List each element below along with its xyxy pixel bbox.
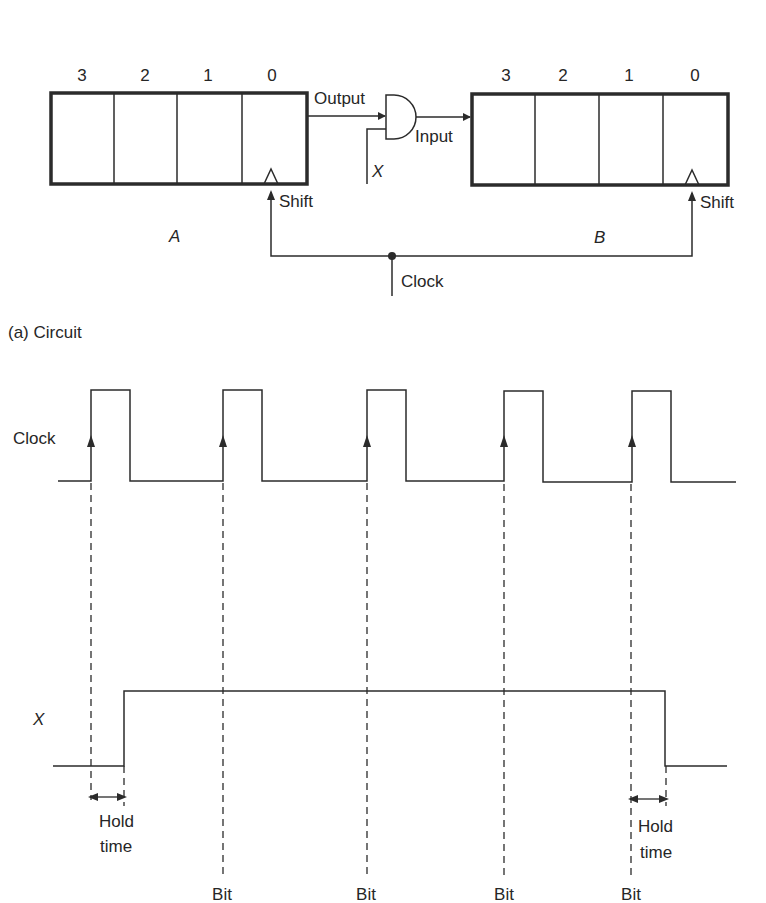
hold-time-right-line1: Hold [638, 818, 673, 835]
register-b-name: B [594, 229, 605, 246]
register-a-bit-0: 0 [267, 67, 276, 84]
bit-label-3: Bit [494, 886, 514, 903]
bit-label-4: Bit [621, 886, 641, 903]
register-b [472, 94, 728, 185]
hold-time-left-line2: time [100, 838, 132, 855]
diagram-lines [0, 0, 766, 903]
gate-x-label: X [372, 163, 383, 180]
x-waveform [53, 691, 727, 766]
dashed-guides [91, 483, 666, 875]
rising-edge-arrows [87, 435, 636, 447]
circuit-caption: (a) Circuit [8, 324, 82, 341]
timing-x-label: X [33, 711, 44, 728]
circuit-clock-label: Clock [401, 273, 444, 290]
register-b-bit-3: 3 [501, 67, 510, 84]
clock-input-triangle-icon [264, 169, 278, 184]
clock-waveform [58, 390, 736, 482]
register-a-name: A [169, 228, 180, 245]
register-a [51, 93, 307, 184]
shift-register-diagram: 3 2 1 0 3 2 1 0 Output Input X Shift Shi… [0, 0, 766, 903]
hold-time-left-line1: Hold [99, 813, 134, 830]
register-b-bit-2: 2 [558, 67, 567, 84]
bit-label-1: Bit [212, 886, 232, 903]
register-a-bit-2: 2 [140, 67, 149, 84]
register-a-bit-1: 1 [203, 67, 212, 84]
register-a-bit-3: 3 [77, 67, 86, 84]
hold-time-right-line2: time [640, 844, 672, 861]
timing-clock-label: Clock [13, 430, 56, 447]
and-gate-icon [386, 95, 416, 139]
register-b-shift-label: Shift [700, 194, 734, 211]
register-a-shift-label: Shift [279, 193, 313, 210]
clock-input-triangle-icon [685, 170, 699, 185]
output-label: Output [314, 90, 365, 107]
register-b-bit-1: 1 [624, 67, 633, 84]
input-label: Input [415, 128, 453, 145]
register-b-bit-0: 0 [690, 67, 699, 84]
bit-label-2: Bit [356, 886, 376, 903]
